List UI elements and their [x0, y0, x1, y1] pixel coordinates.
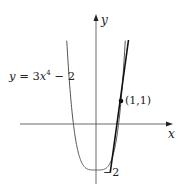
- point-label: (1,1): [125, 94, 151, 107]
- tangent-point: [119, 99, 124, 104]
- x-axis-arrow-icon: [166, 122, 173, 127]
- function-graph: y x (1,1) −2 y = 3x4 − 2: [0, 0, 185, 192]
- x-axis: [20, 122, 173, 127]
- intercept-label: −2: [103, 166, 119, 179]
- x-axis-label: x: [168, 127, 175, 141]
- y-axis: [94, 14, 99, 184]
- y-axis-arrow-icon: [94, 14, 99, 21]
- equation-label: y = 3x4 − 2: [8, 69, 75, 83]
- y-axis-label: y: [100, 13, 108, 27]
